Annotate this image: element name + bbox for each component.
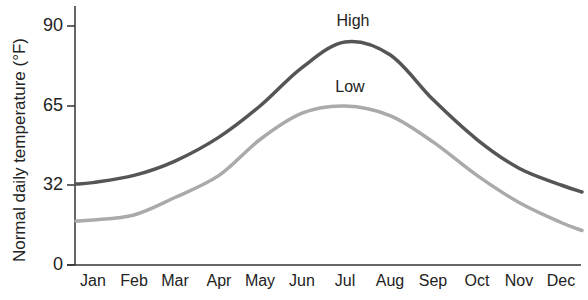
x-tick-label: Mar [161, 272, 189, 290]
series-label-low: Low [335, 78, 364, 96]
y-tick-label: 90 [23, 15, 63, 36]
y-axis-label: Normal daily temperature (°F) [10, 38, 30, 262]
x-tick-label: Dec [547, 272, 575, 290]
x-tick-label: May [245, 272, 275, 290]
high-temperature-line [76, 42, 582, 192]
x-tick-label: Feb [120, 272, 148, 290]
low-temperature-line [76, 106, 582, 231]
y-tick-label: 0 [23, 254, 63, 275]
y-tick-label: 65 [23, 95, 63, 116]
x-tick-label: Sep [419, 272, 447, 290]
y-tick-label: 32 [23, 174, 63, 195]
x-tick-label: Jul [335, 272, 355, 290]
x-tick-label: Aug [376, 272, 404, 290]
series-label-high: High [337, 12, 370, 30]
x-tick-label: Jun [289, 272, 315, 290]
x-tick-label: Apr [207, 272, 232, 290]
x-tick-label: Nov [505, 272, 533, 290]
x-tick-label: Oct [465, 272, 490, 290]
plot-area [0, 0, 588, 300]
x-tick-label: Jan [80, 272, 106, 290]
